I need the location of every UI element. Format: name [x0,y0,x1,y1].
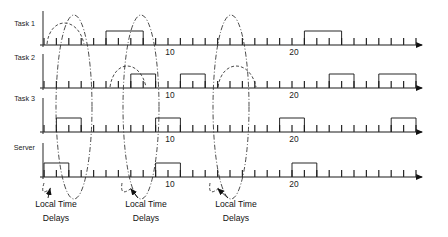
task-pulses-group [44,31,416,177]
row-label-server: Server [14,143,36,152]
tick-label-task1-20: 20 [289,47,299,57]
tick-labels-group: 1020102010201020 [165,47,299,189]
tick-label-task3-20: 20 [289,134,299,144]
ltd-1-leader [48,189,50,198]
ltd-2-leader [131,189,138,198]
tick-label-server-10: 10 [165,179,175,189]
tick-label-task1-10: 10 [165,47,175,57]
delay-ellipses-group [56,15,249,199]
ltd-2-line1: Local Time [125,199,167,209]
ltd-3-line2: Delays [223,213,249,223]
timing-diagram-svg: Task 1Task 2Task 3Server 102010201020102… [0,0,448,237]
tick-label-server-20: 20 [289,179,299,189]
arc-t2-b [218,66,256,87]
row-label-task2: Task 2 [14,53,35,62]
ltd-1-line1: Local Time [35,199,77,209]
delay-ellipse-3 [213,15,249,199]
arc-a3 [210,183,219,192]
arc-a2 [122,183,132,192]
dashed-arcs-group [43,23,256,192]
pulse-task1-1 [304,31,341,45]
arc-t2-a [110,66,146,87]
row-labels-group: Task 1Task 2Task 3Server [14,19,36,152]
tick-label-task3-10: 10 [165,134,175,144]
row-label-task1: Task 1 [14,19,35,28]
ltd-3-line1: Local Time [215,199,257,209]
ltd-2-line2: Delays [133,213,159,223]
tick-label-task2-20: 20 [289,90,299,100]
timing-diagram-figure: Task 1Task 2Task 3Server 102010201020102… [0,0,448,237]
timeline-ticks-group [44,38,416,177]
row-label-task3: Task 3 [14,94,35,103]
delay-ellipse-2 [123,15,159,199]
pulse-task1-0 [106,31,143,45]
delay-ellipse-1 [56,15,92,199]
timeline-axes-group [40,45,422,177]
tick-label-task2-10: 10 [165,90,175,100]
pulse-task2-3 [379,74,416,88]
ltd-3-leader [218,189,228,198]
ltd-1-line2: Delays [43,213,69,223]
